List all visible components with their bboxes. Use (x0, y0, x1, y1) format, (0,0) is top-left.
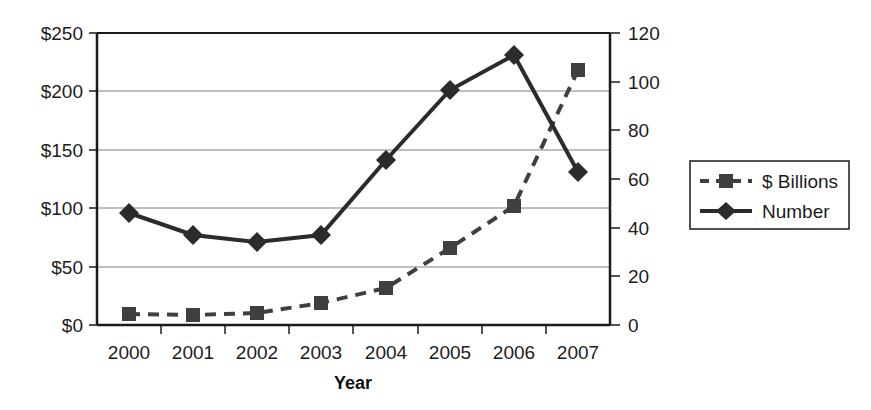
left-axis-tick-label: $0 (62, 315, 83, 336)
chart-legend: $ Billions Number (690, 161, 849, 229)
data-point-marker (571, 63, 585, 77)
x-axis-tick-label: 2001 (172, 342, 214, 363)
legend-swatch-square-marker (719, 174, 733, 188)
legend-label-number: Number (762, 201, 830, 222)
data-point-marker (314, 296, 328, 310)
right-axis-tick-label: 0 (628, 315, 639, 336)
dual-axis-line-chart: $250 $200 $150 $100 $50 $0 120 100 80 60… (0, 0, 871, 410)
x-axis-tick-label: 2003 (300, 342, 342, 363)
x-axis-tick-label: 2005 (429, 342, 471, 363)
right-axis-tick-label: 20 (628, 266, 649, 287)
x-axis-tick-label: 2004 (365, 342, 408, 363)
data-point-marker (379, 281, 393, 295)
chart-container: $250 $200 $150 $100 $50 $0 120 100 80 60… (0, 0, 871, 410)
data-point-marker (122, 307, 136, 321)
left-axis-tick-label: $150 (41, 140, 83, 161)
left-axis-tick-label: $200 (41, 81, 83, 102)
right-axis-tick-label: 60 (628, 169, 649, 190)
left-axis-tick-label: $100 (41, 198, 83, 219)
data-point-marker (186, 308, 200, 322)
x-axis-tick-label: 2000 (108, 342, 150, 363)
left-axis-tick-label: $50 (51, 257, 83, 278)
x-axis-title: Year (334, 373, 372, 393)
data-point-marker (507, 199, 521, 213)
right-axis-tick-label: 120 (628, 23, 660, 44)
right-axis-tick-label: 80 (628, 120, 649, 141)
x-axis-tick-label: 2007 (557, 342, 599, 363)
left-axis-tick-label: $250 (41, 23, 83, 44)
right-axis-tick-label: 40 (628, 218, 649, 239)
legend-label-dollar-billions: $ Billions (762, 171, 838, 192)
x-axis-tick-label: 2006 (493, 342, 535, 363)
x-axis-tick-label: 2002 (236, 342, 278, 363)
data-point-marker (250, 306, 264, 320)
right-axis-tick-label: 100 (628, 72, 660, 93)
data-point-marker (443, 241, 457, 255)
